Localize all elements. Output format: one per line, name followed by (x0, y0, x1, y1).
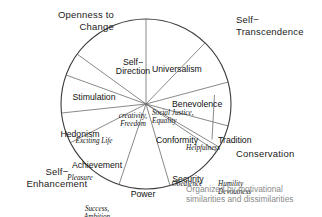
segment-stimulation: Stimulation Exciting Life (61, 57, 127, 182)
segment-name-security: Security (159, 175, 217, 184)
segment-name-tradition: Tradition (218, 136, 266, 145)
segment-sub-stimulation: Exciting Life (61, 138, 127, 146)
footnote-text: Organized by motivational similarities a… (186, 184, 322, 205)
values-circumplex-diagram: Openness to Change Self− Transcendence S… (0, 0, 322, 217)
segment-name-stimulation: Stimulation (61, 93, 127, 102)
quadrant-label-openness-to-change: Openness to Change (22, 9, 114, 32)
quadrant-label-self-transcendence: Self− Transcendence (236, 14, 322, 37)
segment-security: Security Social Order (159, 139, 217, 217)
